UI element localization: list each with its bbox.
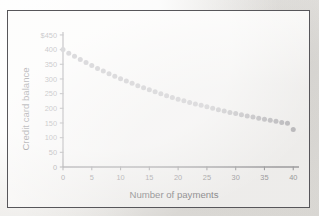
x-tick-label: 0 [61, 173, 65, 182]
data-point [147, 87, 152, 92]
data-point [164, 93, 169, 98]
data-point [193, 101, 198, 106]
data-point [101, 69, 106, 74]
y-tick-label: 400 [45, 45, 57, 54]
data-point [141, 85, 146, 90]
data-point [273, 119, 278, 124]
credit-card-balance-scatter-chart: 050100150200250300350400$450 05101520253… [8, 11, 311, 209]
data-point [245, 113, 250, 118]
data-point [112, 74, 117, 79]
data-point [210, 106, 215, 111]
x-tick-label: 20 [174, 173, 182, 182]
data-point [72, 54, 77, 59]
x-tick-label: 40 [289, 173, 297, 182]
data-point [285, 121, 290, 126]
data-points-group [61, 47, 296, 132]
x-tick-label: 25 [203, 173, 211, 182]
data-point [118, 76, 123, 81]
data-point [239, 112, 244, 117]
y-axis-ticks: 050100150200250300350400$450 [41, 31, 64, 172]
y-tick-label: 0 [53, 163, 57, 172]
y-tick-label: 100 [45, 133, 57, 142]
data-point [158, 91, 163, 96]
x-axis-title: Number of payments [129, 189, 218, 200]
data-point [233, 111, 238, 116]
x-tick-label: 5 [90, 173, 94, 182]
y-tick-label: 50 [49, 148, 57, 157]
data-point [222, 108, 227, 113]
data-point [95, 66, 100, 71]
data-point [66, 51, 71, 56]
x-tick-label: 30 [232, 173, 240, 182]
chart-plot-area: 050100150200250300350400$450 05101520253… [8, 11, 309, 207]
data-point [262, 117, 267, 122]
chart-axes [63, 32, 299, 167]
data-point [204, 104, 209, 109]
data-point [107, 71, 112, 76]
x-axis-ticks: 0510152025303540 [61, 167, 297, 182]
y-tick-label: 250 [45, 89, 57, 98]
data-point [130, 81, 135, 86]
y-tick-label: 150 [45, 119, 57, 128]
data-point [187, 100, 192, 105]
data-point [61, 47, 66, 52]
x-tick-label: 15 [145, 173, 153, 182]
x-tick-label: 35 [260, 173, 268, 182]
data-point [256, 116, 261, 121]
data-point [153, 89, 158, 94]
data-point [135, 83, 140, 88]
data-point [124, 79, 129, 84]
y-tick-label: 200 [45, 104, 57, 113]
x-tick-label: 10 [116, 173, 124, 182]
y-tick-label: 300 [45, 75, 57, 84]
data-point [84, 60, 89, 65]
data-point [216, 107, 221, 112]
data-point [78, 57, 83, 62]
y-axis-title: Credit card balance [20, 67, 31, 150]
figure-frame: 050100150200250300350400$450 05101520253… [7, 10, 310, 208]
data-point [170, 95, 175, 100]
data-point [227, 110, 232, 115]
data-point [89, 63, 94, 68]
data-point [268, 118, 273, 123]
y-tick-label: 350 [45, 60, 57, 69]
data-point [291, 127, 296, 132]
data-point [181, 98, 186, 103]
data-point [279, 120, 284, 125]
y-tick-label: $450 [41, 31, 57, 40]
data-point [250, 115, 255, 120]
data-point [176, 97, 181, 102]
data-point [199, 103, 204, 108]
